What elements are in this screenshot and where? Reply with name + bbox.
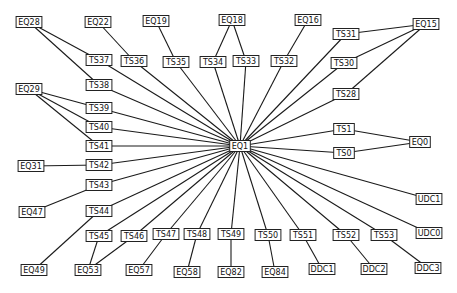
edge-eq1-ts45 [99,146,240,236]
node-ts44[interactable]: TS44 [86,206,112,217]
node-eq16[interactable]: EQ16 [295,15,321,26]
node-label: EQ18 [221,16,243,25]
node-label: TS31 [335,30,356,39]
node-ts28[interactable]: TS28 [333,89,359,100]
node-label: EQ15 [415,20,437,29]
node-label: TS39 [88,104,109,113]
node-eq84[interactable]: EQ84 [262,267,288,278]
node-ts50[interactable]: TS50 [255,230,281,241]
node-ts42[interactable]: TS42 [86,160,112,171]
node-eq49[interactable]: EQ49 [21,265,47,276]
node-udc1[interactable]: UDC1 [416,194,442,205]
node-eq57[interactable]: EQ57 [126,265,152,276]
node-label: TS35 [165,58,186,67]
node-label: EQ84 [264,268,286,277]
node-ts48[interactable]: TS48 [184,229,210,240]
edge-eq1-ts39 [99,108,240,146]
node-eq53[interactable]: EQ53 [75,265,101,276]
node-ts53[interactable]: TS53 [371,230,397,241]
node-label: TS52 [335,231,356,240]
node-eq15[interactable]: EQ15 [413,19,439,30]
node-ddc1[interactable]: DDC1 [309,264,335,275]
node-label: DDC3 [417,264,440,273]
edge-eq1-ts1 [240,129,344,146]
edge-eq19-ts35 [156,21,176,62]
node-label: EQ49 [23,266,45,275]
node-eq28[interactable]: EQ28 [16,17,42,28]
node-label: TS46 [123,232,144,241]
edge-eq28-ts38 [29,22,99,85]
node-eq22[interactable]: EQ22 [85,17,111,28]
node-label: TS44 [88,207,109,216]
node-ts0[interactable]: TS0 [334,148,355,159]
node-label: DDC2 [363,265,386,274]
node-ts39[interactable]: TS39 [86,103,112,114]
node-udc0[interactable]: UDC0 [416,228,442,239]
edge-eq18-ts34 [213,20,232,62]
node-ts41[interactable]: TS41 [86,141,112,152]
node-label: EQ82 [220,268,242,277]
node-ts33[interactable]: TS33 [233,56,259,67]
node-ts36[interactable]: TS36 [121,56,147,67]
node-eq29[interactable]: EQ29 [16,84,42,95]
node-ts45[interactable]: TS45 [86,231,112,242]
node-label: EQ31 [20,162,42,171]
node-ts43[interactable]: TS43 [86,180,112,191]
node-eq18[interactable]: EQ18 [219,15,245,26]
node-label: TS45 [88,232,109,241]
node-ts1[interactable]: TS1 [334,124,355,135]
edge-eq1-ts46 [134,146,240,236]
node-ts40[interactable]: TS40 [86,122,112,133]
node-eq58[interactable]: EQ58 [174,267,200,278]
node-label: DDC1 [311,265,334,274]
edge-eq0-ts1 [344,129,420,142]
node-ts47[interactable]: TS47 [153,229,179,240]
node-label: EQ57 [128,266,150,275]
node-eq1[interactable]: EQ1 [230,141,251,152]
edge-eq1-ts30 [240,63,344,146]
node-label: TS51 [292,231,313,240]
node-label: EQ22 [87,18,109,27]
node-label: TS43 [88,181,109,190]
node-eq31[interactable]: EQ31 [18,161,44,172]
node-ts31[interactable]: TS31 [333,29,359,40]
node-label: TS32 [273,57,294,66]
node-eq82[interactable]: EQ82 [218,267,244,278]
node-ts49[interactable]: TS49 [218,229,244,240]
node-ts51[interactable]: TS51 [290,230,316,241]
edge-eq1-udc0 [240,146,429,233]
edge-eq29-ts41 [29,89,99,146]
node-label: TS37 [88,56,109,65]
edge-eq1-ts53 [240,146,384,235]
node-label: TS0 [335,149,351,158]
edge-eq1-ts32 [240,61,284,146]
node-label: TS38 [88,81,109,90]
node-ts37[interactable]: TS37 [86,55,112,66]
node-ddc3[interactable]: DDC3 [415,263,441,274]
node-label: EQ47 [21,208,43,217]
edge-eq1-ts0 [240,146,344,153]
node-label: EQ0 [412,138,428,147]
edge-eq1-ts50 [240,146,268,235]
node-ts32[interactable]: TS32 [271,56,297,67]
node-label: EQ1 [232,142,248,151]
node-eq47[interactable]: EQ47 [19,207,45,218]
node-ts46[interactable]: TS46 [121,231,147,242]
node-ts52[interactable]: TS52 [333,230,359,241]
node-ts38[interactable]: TS38 [86,80,112,91]
node-label: EQ16 [297,16,319,25]
edge-eq16-ts32 [284,20,308,61]
node-eq0[interactable]: EQ0 [410,137,431,148]
node-ddc2[interactable]: DDC2 [361,264,387,275]
edge-eq1-ts49 [231,146,240,234]
node-ts35[interactable]: TS35 [163,57,189,68]
node-ts30[interactable]: TS30 [331,58,357,69]
node-label: TS1 [335,125,351,134]
edge-eq1-ts31 [240,34,346,146]
node-label: UDC1 [418,195,441,204]
node-eq19[interactable]: EQ19 [143,16,169,27]
node-ts34[interactable]: TS34 [200,57,226,68]
node-label: TS47 [155,230,176,239]
node-label: TS40 [88,123,109,132]
node-label: TS33 [235,57,256,66]
